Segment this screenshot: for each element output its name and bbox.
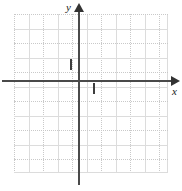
grid-line-horizontal [14, 145, 168, 146]
grid-line-vertical [87, 14, 88, 173]
grid-area [14, 14, 168, 173]
grid-line-vertical [72, 14, 73, 173]
y-axis-label: y [66, 2, 71, 13]
grid-line-horizontal [14, 43, 168, 44]
grid-line-horizontal [14, 130, 168, 131]
grid-line-horizontal [14, 159, 168, 160]
x-axis-line [2, 80, 174, 82]
grid-line-vertical [101, 14, 102, 173]
coordinate-plane-figure: y x [0, 0, 182, 191]
x-axis-label: x [172, 86, 177, 97]
y-axis-arrow-icon [74, 3, 84, 12]
grid-line-vertical [145, 14, 146, 173]
grid-line-vertical [14, 14, 15, 173]
grid-line-horizontal [14, 101, 168, 102]
grid-line-horizontal [14, 58, 168, 59]
grid-line-vertical [167, 14, 168, 173]
grid-line-vertical [58, 14, 59, 173]
grid-line-vertical [159, 14, 160, 173]
grid-line-vertical [29, 14, 30, 173]
grid-line-vertical [116, 14, 117, 173]
grid-line-vertical [43, 14, 44, 173]
grid-line-horizontal [14, 14, 168, 15]
y-axis-line [78, 10, 80, 185]
grid-line-horizontal [14, 29, 168, 30]
grid-line-vertical [130, 14, 131, 173]
grid-line-horizontal [14, 116, 168, 117]
y-axis-unit-tick [70, 59, 72, 70]
grid-line-horizontal [14, 172, 168, 173]
x-axis-unit-tick [93, 83, 95, 94]
grid-line-horizontal [14, 72, 168, 73]
grid-line-horizontal [14, 87, 168, 88]
